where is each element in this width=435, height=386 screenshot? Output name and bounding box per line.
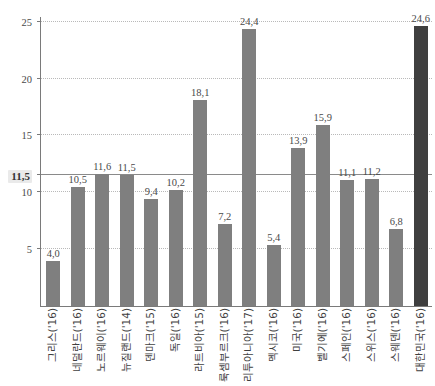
- bar[interactable]: [414, 26, 428, 306]
- category-label-slot: 노르웨이('16): [89, 308, 114, 386]
- category-label: 네덜란드('16): [71, 308, 82, 372]
- bar-slot: 9,4: [139, 17, 164, 306]
- category-label-slot: 독일('16): [163, 308, 188, 386]
- category-label-slot: 벨기에('16): [310, 308, 335, 386]
- category-label: 노르웨이('16): [96, 308, 107, 372]
- category-label: 스웨덴('16): [390, 308, 401, 362]
- category-label-slot: 멕시코('16): [261, 308, 286, 386]
- bar-value-label: 24,6: [412, 13, 430, 24]
- reference-line-label: 11,5: [8, 170, 32, 183]
- category-label: 그리스('16): [47, 308, 58, 362]
- category-label-slot: 미국('16): [285, 308, 310, 386]
- category-label: 스위스('16): [365, 308, 376, 362]
- bar[interactable]: [242, 29, 256, 306]
- bar-value-label: 10,2: [167, 177, 185, 188]
- category-label: 멕시코('16): [267, 308, 278, 362]
- category-label: 독일('16): [169, 308, 180, 352]
- bar-chart: 51015202511,5 4,010,511,611,59,410,218,1…: [0, 0, 435, 386]
- bar-slot: 10,2: [164, 17, 189, 306]
- category-label: 리투아니아('17): [243, 308, 254, 382]
- bar-slot: 24,4: [237, 17, 262, 306]
- category-label-slot: 스웨덴('16): [383, 308, 408, 386]
- bar-slot: 5,4: [262, 17, 287, 306]
- bar-slot: 7,2: [213, 17, 238, 306]
- bar-value-label: 11,1: [338, 167, 356, 178]
- bar-value-label: 24,4: [240, 16, 258, 27]
- bar-value-label: 9,4: [145, 186, 158, 197]
- bar-value-label: 4,0: [47, 248, 60, 259]
- category-label-slot: 그리스('16): [40, 308, 65, 386]
- bar-value-label: 11,2: [363, 166, 381, 177]
- category-label: 대한민국('16): [414, 308, 425, 372]
- bar[interactable]: [193, 100, 207, 306]
- bar-slot: 11,6: [90, 17, 115, 306]
- bar[interactable]: [46, 261, 60, 306]
- bar[interactable]: [340, 180, 354, 306]
- bar[interactable]: [316, 125, 330, 306]
- category-label-slot: 스위스('16): [359, 308, 384, 386]
- bar[interactable]: [267, 245, 281, 306]
- bar[interactable]: [144, 199, 158, 306]
- category-label: 덴마크('15): [145, 308, 156, 362]
- bar-value-label: 15,9: [314, 112, 332, 123]
- bar-value-label: 11,6: [93, 161, 111, 172]
- bar[interactable]: [95, 174, 109, 306]
- bar-slot: 11,5: [115, 17, 140, 306]
- bar-slot: 11,2: [360, 17, 385, 306]
- bar[interactable]: [218, 224, 232, 306]
- bar-slot: 4,0: [41, 17, 66, 306]
- y-axis-label-25: 25: [22, 17, 33, 28]
- y-axis-label-10: 10: [22, 187, 33, 198]
- category-label-slot: 뉴질랜드('14): [114, 308, 139, 386]
- category-label: 미국('16): [292, 308, 303, 352]
- bar-value-label: 18,1: [191, 87, 209, 98]
- y-axis-label-5: 5: [27, 244, 32, 255]
- category-label-slot: 네덜란드('16): [65, 308, 90, 386]
- bar-slot: 18,1: [188, 17, 213, 306]
- category-label-slot: 라트비아('15): [187, 308, 212, 386]
- bar[interactable]: [365, 179, 379, 306]
- bar-slot: 11,1: [335, 17, 360, 306]
- category-label-slot: 덴마크('15): [138, 308, 163, 386]
- bar-value-label: 5,4: [267, 232, 280, 243]
- x-axis-category-labels: 그리스('16)네덜란드('16)노르웨이('16)뉴질랜드('14)덴마크('…: [40, 308, 432, 386]
- bar-value-label: 7,2: [218, 211, 231, 222]
- bar-value-label: 11,5: [118, 162, 136, 173]
- category-label-slot: 룩셈부르크('16): [212, 308, 237, 386]
- bar[interactable]: [169, 190, 183, 306]
- plot-area: 4,010,511,611,59,410,218,17,224,45,413,9…: [40, 17, 432, 307]
- bar-value-label: 6,8: [390, 216, 403, 227]
- category-label: 벨기에('16): [316, 308, 327, 362]
- bar-slot: 15,9: [311, 17, 336, 306]
- bar-slot: 10,5: [66, 17, 91, 306]
- category-label-slot: 대한민국('16): [408, 308, 433, 386]
- bar-series: 4,010,511,611,59,410,218,17,224,45,413,9…: [41, 17, 432, 306]
- bar-value-label: 10,5: [69, 174, 87, 185]
- bar-value-label: 13,9: [289, 135, 307, 146]
- bar-slot: 6,8: [384, 17, 409, 306]
- bar-slot: 13,9: [286, 17, 311, 306]
- y-axis-label-20: 20: [22, 74, 33, 85]
- category-label: 뉴질랜드('14): [120, 308, 131, 372]
- category-label: 스페인('16): [341, 308, 352, 362]
- category-label-slot: 리투아니아('17): [236, 308, 261, 386]
- category-label: 룩셈부르크('16): [218, 308, 229, 382]
- bar-slot: 24,6: [409, 17, 434, 306]
- y-axis-label-15: 15: [22, 130, 33, 141]
- category-label-slot: 스페인('16): [334, 308, 359, 386]
- category-label: 라트비아('15): [194, 308, 205, 372]
- bar[interactable]: [120, 175, 134, 306]
- bar[interactable]: [389, 229, 403, 306]
- bar[interactable]: [71, 187, 85, 306]
- bar[interactable]: [291, 148, 305, 306]
